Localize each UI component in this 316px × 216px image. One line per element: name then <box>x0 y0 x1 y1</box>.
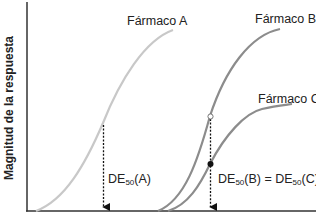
curve-drug-a <box>36 30 173 211</box>
label-drug-b: Fármaco B <box>255 12 316 26</box>
label-ed50-bc: DE50(B) = DE50(C) <box>218 172 316 187</box>
label-drug-c: Fármaco C <box>258 92 316 106</box>
ed50-a-suffix: (A) <box>134 172 151 186</box>
ed50-b-suffix: (B) = <box>244 172 275 186</box>
curve-drug-c <box>168 104 292 211</box>
ed50-a-sub: 50 <box>125 178 134 187</box>
ed50-a-prefix: DE <box>108 172 125 186</box>
y-axis-label: Magnitud de la respuesta <box>2 36 16 180</box>
label-drug-a: Fármaco A <box>127 14 187 28</box>
ed50-b-prefix: DE <box>218 172 235 186</box>
ed50-c-suffix: (C) <box>301 172 316 186</box>
ed50-b-open-marker <box>208 114 213 119</box>
label-ed50-a: DE50(A) <box>108 172 151 187</box>
ed50-c-prefix: DE <box>275 172 292 186</box>
ed50-b-sub: 50 <box>235 178 244 187</box>
ed50-c-filled-marker <box>208 161 214 167</box>
